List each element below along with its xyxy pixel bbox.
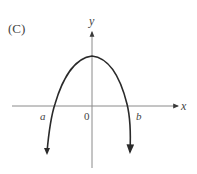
y-axis-label: y (89, 15, 94, 27)
curve-left-arrow-icon (44, 148, 50, 155)
origin-label: 0 (84, 111, 90, 122)
graph-figure: (C) y x a 0 b (0, 0, 197, 174)
root-a-label: a (40, 111, 46, 122)
root-b-label: b (136, 111, 142, 122)
graph-canvas (0, 0, 197, 174)
panel-label: (C) (8, 22, 25, 35)
x-axis-label: x (181, 100, 186, 112)
parabola-curve (47, 56, 130, 152)
